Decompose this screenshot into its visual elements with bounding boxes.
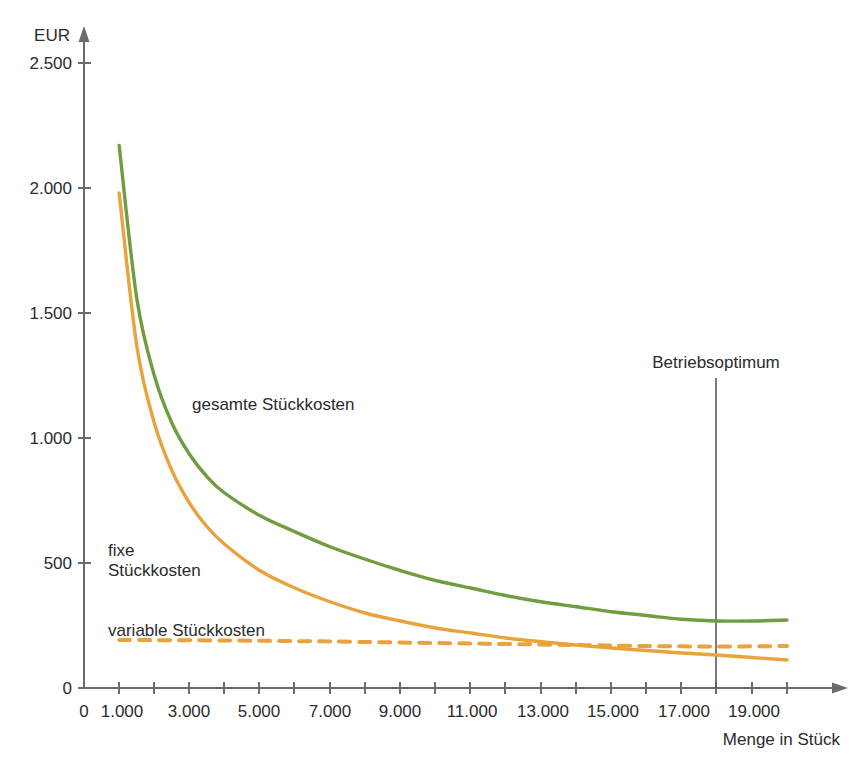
x-tick-label-19000: 19.000 [728, 702, 780, 721]
fixed-cost-label-line1: fixe [108, 541, 134, 560]
total-cost-label: gesamte Stückkosten [192, 395, 355, 414]
x-tick-label-5000: 5.000 [238, 702, 281, 721]
y-tick-label-1000: 1.000 [29, 429, 72, 448]
y-tick-label-0: 0 [63, 679, 72, 698]
y-tick-label-2000: 2.000 [29, 179, 72, 198]
variable-cost-curve [119, 640, 787, 647]
x-axis-title: Menge in Stück [723, 730, 841, 749]
betriebsoptimum-label: Betriebsoptimum [652, 353, 780, 372]
y-axis-title: EUR [34, 26, 70, 45]
y-axis-arrow [79, 26, 90, 42]
x-tick-label-0: 0 [79, 702, 88, 721]
y-axis [79, 26, 90, 688]
variable-cost-label: variable Stückkosten [108, 621, 265, 640]
x-tick-label-11000: 11.000 [447, 702, 498, 721]
total-cost-curve [119, 146, 787, 622]
unit-cost-chart: 0 500 1.000 1.500 2.000 2.500 EUR [0, 0, 859, 765]
fixed-cost-curve [119, 193, 787, 660]
x-tick-label-7000: 7.000 [309, 702, 352, 721]
fixed-cost-label-line2: Stückkosten [108, 561, 201, 580]
y-tick-label-1500: 1.500 [29, 304, 72, 323]
x-tick-label-9000: 9.000 [379, 702, 422, 721]
x-tick-label-13000: 13.000 [517, 702, 569, 721]
x-tick-label-3000: 3.000 [168, 702, 211, 721]
y-tick-label-2500: 2.500 [29, 54, 72, 73]
x-axis [84, 683, 848, 694]
x-tick-label-17000: 17.000 [658, 702, 710, 721]
chart-canvas: 0 500 1.000 1.500 2.000 2.500 EUR [0, 0, 859, 765]
y-tick-label-500: 500 [44, 554, 72, 573]
x-axis-arrow [832, 683, 848, 694]
x-tick-label-15000: 15.000 [587, 702, 639, 721]
x-tick-label-1000: 1.000 [101, 702, 144, 721]
